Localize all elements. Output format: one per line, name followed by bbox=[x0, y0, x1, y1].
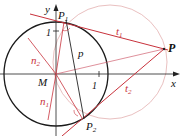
label-P2: P2 bbox=[85, 120, 97, 134]
polar-line bbox=[66, 20, 84, 119]
label-polar: p bbox=[77, 47, 84, 59]
diagram-svg: y x M 1 1 P1 P2 P t1 t2 n1 n2 p bbox=[0, 0, 181, 136]
point-P bbox=[163, 48, 165, 50]
label-t2: t2 bbox=[125, 82, 132, 96]
label-n1: n1 bbox=[40, 95, 49, 109]
label-y: y bbox=[44, 3, 50, 15]
label-unit-x: 1 bbox=[92, 80, 97, 91]
label-n2: n2 bbox=[31, 54, 41, 68]
normal-n1 bbox=[56, 22, 64, 74]
label-x: x bbox=[170, 77, 176, 89]
tangent-t2 bbox=[62, 49, 164, 136]
label-unit-y: 1 bbox=[46, 27, 51, 38]
label-P1: P1 bbox=[57, 9, 68, 23]
label-t1: t1 bbox=[116, 25, 123, 39]
label-P: P bbox=[168, 41, 176, 55]
x-axis-arrow bbox=[173, 72, 180, 77]
normal-ext1 bbox=[48, 74, 56, 120]
diagram-canvas: y x M 1 1 P1 P2 P t1 t2 n1 n2 p bbox=[0, 0, 181, 136]
normal-n2 bbox=[56, 74, 82, 118]
thales-circle bbox=[53, 5, 167, 119]
label-M: M bbox=[37, 76, 48, 88]
